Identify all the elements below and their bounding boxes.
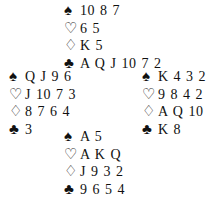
south-diamonds: J 9 3 2 xyxy=(80,164,123,179)
east-hand: ♠K 4 3 2 ♡9 8 4 2 ♢A Q 10 ♣K 8 xyxy=(142,68,206,138)
east-clubs: K 8 xyxy=(158,122,181,137)
south-clubs: 9 6 5 4 xyxy=(80,182,125,197)
west-clubs: 3 xyxy=(25,122,33,137)
club-icon: ♣ xyxy=(142,121,158,139)
east-diamonds-row: ♢A Q 10 xyxy=(142,103,206,121)
north-diamonds-row: ♢K 5 xyxy=(64,37,161,55)
east-hearts: 9 8 4 2 xyxy=(158,87,203,102)
spade-icon: ♠ xyxy=(142,68,158,86)
diamond-icon: ♢ xyxy=(142,103,158,121)
south-hearts: A K Q xyxy=(80,147,121,162)
spade-icon: ♠ xyxy=(64,2,80,20)
heart-icon: ♡ xyxy=(64,146,80,164)
west-hearts: J 10 7 3 xyxy=(25,87,76,102)
spade-icon: ♠ xyxy=(9,68,25,86)
club-icon: ♣ xyxy=(9,121,25,139)
west-diamonds: 8 7 6 4 xyxy=(25,104,70,119)
south-hearts-row: ♡A K Q xyxy=(64,146,125,164)
west-diamonds-row: ♢8 7 6 4 xyxy=(9,103,76,121)
east-diamonds: A Q 10 xyxy=(158,104,203,119)
heart-icon: ♡ xyxy=(9,86,25,104)
east-hearts-row: ♡9 8 4 2 xyxy=(142,86,206,104)
diamond-icon: ♢ xyxy=(64,163,80,181)
south-hand: ♠A 5 ♡A K Q ♢J 9 3 2 ♣9 6 5 4 xyxy=(64,128,125,198)
north-hearts: 6 5 xyxy=(80,21,100,36)
west-spades: Q J 9 6 xyxy=(25,69,72,84)
diamond-icon: ♢ xyxy=(64,37,80,55)
east-spades-row: ♠K 4 3 2 xyxy=(142,68,206,86)
east-clubs-row: ♣K 8 xyxy=(142,121,206,139)
north-spades: 10 8 7 xyxy=(80,3,120,18)
heart-icon: ♡ xyxy=(142,86,158,104)
heart-icon: ♡ xyxy=(64,20,80,38)
south-diamonds-row: ♢J 9 3 2 xyxy=(64,163,125,181)
west-hearts-row: ♡J 10 7 3 xyxy=(9,86,76,104)
north-hand: ♠10 8 7 ♡6 5 ♢K 5 ♣A Q J 10 7 2 xyxy=(64,2,161,72)
west-spades-row: ♠Q J 9 6 xyxy=(9,68,76,86)
club-icon: ♣ xyxy=(64,181,80,199)
north-spades-row: ♠10 8 7 xyxy=(64,2,161,20)
north-diamonds: K 5 xyxy=(80,38,103,53)
south-spades-row: ♠A 5 xyxy=(64,128,125,146)
north-hearts-row: ♡6 5 xyxy=(64,20,161,38)
spade-icon: ♠ xyxy=(64,128,80,146)
diamond-icon: ♢ xyxy=(9,103,25,121)
east-spades: K 4 3 2 xyxy=(158,69,206,84)
south-clubs-row: ♣9 6 5 4 xyxy=(64,181,125,199)
south-spades: A 5 xyxy=(80,129,102,144)
